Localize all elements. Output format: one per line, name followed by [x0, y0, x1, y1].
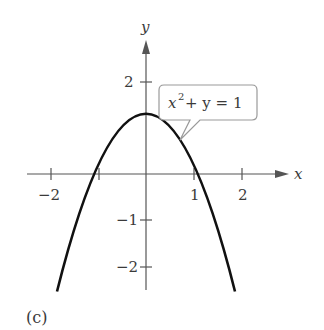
y-axis-title: y	[140, 18, 150, 36]
equation-x: x	[168, 94, 177, 112]
equation-rest: + y = 1	[185, 94, 242, 112]
y-axis-arrow-icon	[142, 40, 150, 54]
equation-exponent: 2	[178, 91, 184, 102]
x-axis-title: x	[294, 165, 303, 183]
x-axis-arrow-icon	[275, 170, 289, 178]
panel-label: (c)	[26, 308, 47, 327]
y-axis	[140, 40, 152, 290]
plot-canvas: x 2 + y = 1 y x −2 1 2 2 −1 −2 (c)	[0, 0, 324, 330]
x-tick-label-neg2: −2	[38, 186, 60, 204]
y-tick-label-2: 2	[124, 73, 134, 91]
x-axis	[27, 168, 289, 180]
y-tick-label-neg1: −1	[116, 211, 138, 229]
x-tick-label-2: 2	[238, 186, 248, 204]
y-tick-label-neg2: −2	[116, 258, 138, 276]
x-tick-label-1: 1	[190, 186, 200, 204]
graph-figure: x 2 + y = 1 y x −2 1 2 2 −1 −2 (c)	[0, 0, 324, 330]
